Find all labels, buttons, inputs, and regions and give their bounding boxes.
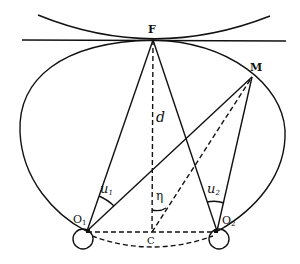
point-label-C: C bbox=[147, 236, 155, 246]
O1-text: O bbox=[73, 213, 82, 226]
line-O1-M bbox=[87, 77, 252, 231]
marker-O2 bbox=[214, 229, 218, 233]
orbit-curve-left bbox=[20, 40, 153, 231]
line-O2-M bbox=[217, 77, 252, 231]
O2-text: O bbox=[222, 214, 231, 227]
angle-label-u1: u1 bbox=[100, 182, 113, 197]
dashed-line-F-C bbox=[152, 40, 153, 232]
arc-u2 bbox=[207, 201, 224, 203]
diagram-canvas: F M d u1 u2 η O1 O2 C bbox=[0, 0, 300, 264]
dashed-line-C-M bbox=[152, 77, 252, 232]
angle-label-u2: u2 bbox=[207, 182, 220, 197]
point-label-M: M bbox=[250, 62, 262, 73]
point-label-O1: O1 bbox=[73, 214, 87, 227]
angle-label-eta: η bbox=[156, 190, 163, 202]
point-label-O2: O2 bbox=[222, 215, 236, 228]
length-label-d: d bbox=[156, 110, 165, 124]
u2-sub: 2 bbox=[215, 189, 219, 197]
O2-sub: 2 bbox=[231, 220, 235, 228]
line-O1-F bbox=[87, 40, 153, 231]
u1-sub: 1 bbox=[108, 189, 112, 197]
O1-sub: 1 bbox=[82, 219, 86, 227]
geometry-figure bbox=[0, 0, 300, 264]
point-label-F: F bbox=[148, 24, 156, 35]
marker-O1 bbox=[86, 229, 90, 233]
arc-eta bbox=[152, 208, 166, 211]
arc-u1 bbox=[99, 196, 114, 206]
